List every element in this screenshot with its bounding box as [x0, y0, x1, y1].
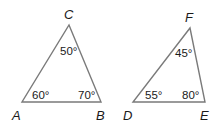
angle-label-e: 80° [182, 89, 199, 101]
two-triangles-diagram: C A B 50° 60° 70° F D E 45° 55° 80° [0, 0, 219, 126]
vertex-label-f: F [185, 10, 194, 25]
angle-label-a: 60° [32, 89, 49, 101]
vertex-label-d: D [123, 108, 132, 123]
triangle-abc: C A B 50° 60° 70° [11, 7, 105, 123]
triangle-def: F D E 45° 55° 80° [123, 10, 209, 123]
vertex-label-a: A [11, 108, 21, 123]
angle-label-c: 50° [60, 45, 77, 57]
vertex-label-e: E [200, 108, 209, 123]
angle-label-f: 45° [175, 47, 192, 59]
angle-label-b: 70° [78, 89, 95, 101]
vertex-label-b: B [96, 108, 105, 123]
vertex-label-c: C [64, 7, 74, 22]
angle-label-d: 55° [145, 89, 162, 101]
